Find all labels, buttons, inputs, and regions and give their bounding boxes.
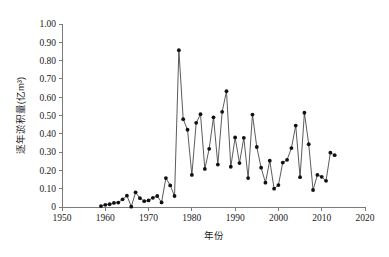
y-axis-title: 逐年淤积量(亿m³) [15,77,26,154]
data-point [103,203,107,207]
data-point [151,196,155,200]
y-tick-label: 0.60 [39,93,56,103]
data-point [324,179,328,183]
x-tick-label: 1980 [182,213,201,223]
data-point [194,121,198,125]
data-point [181,117,185,121]
data-point [125,194,129,198]
data-point [255,145,259,149]
data-point [242,136,246,140]
y-tick-label: 1.00 [39,19,56,29]
data-point [216,163,220,167]
data-point [285,158,289,162]
data-point [190,173,194,177]
data-point [112,201,116,205]
data-point [142,199,146,203]
data-point [238,161,242,165]
y-axis: 00.100.200.300.400.500.600.700.800.901.0… [39,19,62,212]
data-point [229,165,233,169]
chart-figure: 00.100.200.300.400.500.600.700.800.901.0… [0,0,389,257]
data-point [298,175,302,179]
data-point [134,190,138,194]
y-tick-label: 0.20 [39,166,56,176]
data-point [116,201,120,205]
data-point [272,187,276,191]
y-tick-label: 0.50 [39,111,56,121]
x-tick-label: 1970 [139,213,158,223]
data-point [203,167,207,171]
y-tick-label: 0.30 [39,147,56,157]
data-point [121,197,125,201]
data-point [186,128,190,132]
y-tick-label: 0.80 [39,56,56,66]
data-point [320,175,324,179]
data-point [129,205,133,209]
y-tick-label: 0.10 [39,184,56,194]
data-point [168,184,172,188]
data-point [264,181,268,185]
data-point [328,151,332,155]
y-tick-label: 0.40 [39,129,56,139]
data-point [307,142,311,146]
data-point [160,201,164,205]
data-point [220,110,224,114]
data-point [294,124,298,128]
data-point [225,89,229,93]
y-tick-label: 0.70 [39,74,56,84]
x-tick-label: 1950 [53,213,72,223]
data-point [290,146,294,150]
x-tick-label: 2000 [269,213,288,223]
data-point [147,199,151,203]
data-point [268,159,272,163]
series-polyline [101,50,335,206]
data-point [333,153,337,157]
y-tick-label: 0.90 [39,38,56,48]
data-point [303,111,307,115]
data-point [233,136,237,140]
data-point [99,204,103,208]
x-tick-label: 1960 [96,213,115,223]
line-chart: 00.100.200.300.400.500.600.700.800.901.0… [0,0,389,257]
data-point [199,112,203,116]
data-point [108,202,112,206]
data-series [99,48,337,208]
data-point [259,166,263,170]
data-point [251,113,255,117]
data-point [277,183,281,187]
x-tick-label: 2020 [356,213,375,223]
data-point [207,147,211,151]
data-point [246,176,250,180]
data-point [155,194,159,198]
y-tick-label: 0 [51,202,56,212]
data-point [311,188,315,192]
data-point [212,115,216,119]
data-point [177,48,181,52]
x-tick-label: 1990 [226,213,245,223]
data-point [281,161,285,165]
x-axis: 19501960197019801990200020102020 [53,207,375,223]
data-point [315,173,319,177]
data-point [138,196,142,200]
data-point [164,176,168,180]
x-axis-title: 年份 [204,230,224,241]
data-point [173,194,177,198]
x-tick-label: 2010 [312,213,331,223]
